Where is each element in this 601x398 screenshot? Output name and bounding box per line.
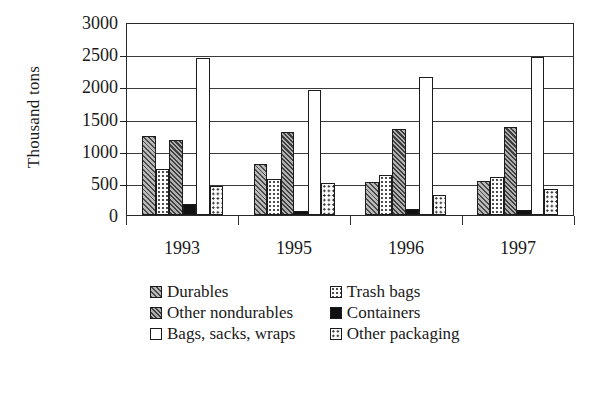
bar[interactable] [406,209,420,215]
bar[interactable] [365,182,379,215]
bar-groups [127,24,573,215]
legend-item-other-nondurables[interactable]: Other nondurables [150,304,316,321]
y-tick-label: 0 [54,207,118,225]
bar[interactable] [321,183,335,215]
y-tick-label: 1000 [54,143,118,161]
y-axis-title: Thousand tons [24,17,44,217]
bar-group-1995 [239,24,351,215]
y-tick-mark [120,121,127,122]
x-tick-mark [350,216,351,225]
y-tick-mark [120,185,127,186]
y-tick-mark [120,153,127,154]
y-tick-label: 1500 [54,111,118,129]
y-axis-tick-labels: 300025002000150010005000 [46,0,118,260]
x-tick-mark [462,216,463,225]
x-tick-label-1996: 1996 [350,238,462,264]
plot-area [126,23,574,216]
bar[interactable] [142,136,156,215]
y-tick-label: 3000 [54,14,118,32]
bar-group-1997 [462,24,574,215]
bar[interactable] [490,177,504,215]
legend-label: Other packaging [347,325,460,342]
x-tick-mark [238,216,239,225]
bar[interactable] [544,189,558,215]
legend-label: Trash bags [347,283,421,300]
y-tick-mark [120,88,127,89]
x-axis [126,216,574,226]
legend-item-bags-sacks-wraps[interactable]: Bags, sacks, wraps [150,325,316,342]
bar[interactable] [504,127,518,215]
x-tick-label-1997: 1997 [462,238,574,264]
x-tick-label-1995: 1995 [238,238,350,264]
x-axis-tick-labels: 1993199519961997 [126,238,574,264]
bar-group-1996 [350,24,462,215]
bar[interactable] [169,140,183,215]
bar[interactable] [308,90,322,215]
bar[interactable] [392,129,406,215]
legend-item-containers[interactable]: Containers [330,304,480,321]
legend-swatch-icon [150,286,162,298]
legend-swatch-icon [330,307,342,319]
y-tick-label: 500 [54,175,118,193]
bar[interactable] [419,77,433,215]
chart-legend: DurablesTrash bagsOther nondurablesConta… [150,283,480,342]
legend-label: Bags, sacks, wraps [167,325,295,342]
bar[interactable] [254,164,268,215]
y-tick-mark [120,56,127,57]
legend-label: Durables [167,283,228,300]
bar[interactable] [267,179,281,215]
bar[interactable] [196,58,210,215]
bar[interactable] [281,132,295,215]
legend-label: Containers [347,304,421,321]
bar-chart: Thousand tons 300025002000150010005000 1… [0,0,601,398]
y-tick-label: 2000 [54,78,118,96]
bar[interactable] [379,175,393,215]
legend-swatch-icon [330,286,342,298]
bar[interactable] [517,210,531,215]
bar[interactable] [210,186,224,215]
y-tick-label: 2500 [54,46,118,64]
legend-item-durables[interactable]: Durables [150,283,316,300]
legend-item-other-packaging[interactable]: Other packaging [330,325,480,342]
bar[interactable] [294,211,308,215]
bar[interactable] [183,204,197,215]
bar[interactable] [477,181,491,215]
legend-swatch-icon [330,328,342,340]
bar-group-1993 [127,24,239,215]
x-tick-mark [126,216,127,225]
x-tick-label-1993: 1993 [126,238,238,264]
legend-swatch-icon [150,307,162,319]
x-tick-mark [574,216,575,225]
legend-item-trash-bags[interactable]: Trash bags [330,283,480,300]
legend-label: Other nondurables [167,304,293,321]
bar[interactable] [433,195,447,215]
bar[interactable] [531,57,545,215]
legend-swatch-icon [150,328,162,340]
bar[interactable] [156,169,170,215]
